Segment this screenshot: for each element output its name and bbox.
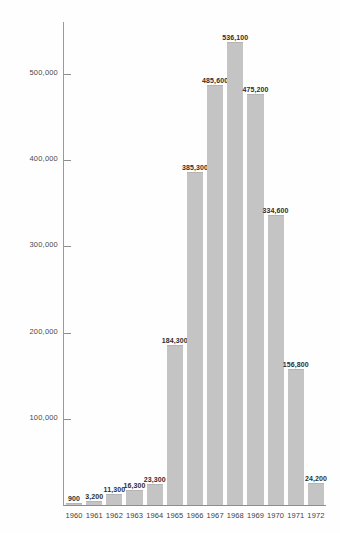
bar[interactable]: [126, 490, 142, 505]
x-axis-label: 1970: [266, 511, 286, 520]
y-axis-tick: 100,000: [64, 419, 71, 420]
bar-slot: 3,200: [86, 22, 102, 505]
y-axis-tick-label: 300,000: [29, 240, 58, 249]
bar[interactable]: [308, 483, 324, 505]
bar-value-label: 485,600: [202, 77, 228, 84]
bar-slot: 16,300: [126, 22, 142, 505]
x-axis-labels: 1960196119621963196419651966196719681969…: [64, 508, 326, 524]
x-axis-label: 1967: [205, 511, 225, 520]
y-axis-tick-label: 100,000: [29, 413, 58, 422]
bar-value-label: 24,200: [305, 475, 327, 482]
bar-value-label: 334,600: [263, 207, 289, 214]
bar-slot: 475,200: [247, 22, 263, 505]
bar-value-label: 16,300: [124, 482, 146, 489]
y-axis-tick-label: 500,000: [29, 68, 58, 77]
bar[interactable]: [86, 501, 102, 505]
bar-value-label: 184,300: [162, 337, 188, 344]
bar-value-label: 536,100: [222, 34, 248, 41]
bar-value-label: 900: [68, 495, 80, 502]
bar-slot: 485,600: [207, 22, 223, 505]
bar-value-label: 385,300: [182, 164, 208, 171]
bar-value-label: 23,300: [144, 476, 166, 483]
bar-slot: 334,600: [268, 22, 284, 505]
bar[interactable]: [66, 503, 82, 506]
bar-slot: 24,200: [308, 22, 324, 505]
bar-slot: 900: [66, 22, 82, 505]
y-axis-tick: 500,000: [64, 74, 71, 75]
bar-slot: 184,300: [167, 22, 183, 505]
x-axis-label: 1964: [145, 511, 165, 520]
y-axis-tick-mark: [64, 333, 71, 334]
bar-slot: 11,300: [106, 22, 122, 505]
bar[interactable]: [167, 345, 183, 505]
bar-value-label: 3,200: [85, 493, 103, 500]
bar-value-label: 11,300: [104, 486, 126, 493]
x-axis-label: 1971: [286, 511, 306, 520]
bar-slot: 385,300: [187, 22, 203, 505]
x-axis-label: 1963: [124, 511, 144, 520]
bar-value-label: 475,200: [242, 86, 268, 93]
bar[interactable]: [288, 369, 304, 505]
x-axis-label: 1968: [225, 511, 245, 520]
x-axis-label: 1962: [104, 511, 124, 520]
bar-slot: 536,100: [227, 22, 243, 505]
bar[interactable]: [268, 215, 284, 505]
y-axis-tick: 300,000: [64, 246, 71, 247]
y-axis-tick: 200,000: [64, 333, 71, 334]
x-axis-line: [64, 505, 326, 506]
bar-slot: 23,300: [147, 22, 163, 505]
y-axis-tick: 400,000: [64, 160, 71, 161]
bar[interactable]: [207, 85, 223, 505]
x-axis-label: 1966: [185, 511, 205, 520]
y-axis-tick-mark: [64, 246, 71, 247]
y-axis-tick-mark: [64, 160, 71, 161]
x-axis-label: 1969: [245, 511, 265, 520]
y-axis-tick-label: 200,000: [29, 327, 58, 336]
bar-chart-figure: 9003,20011,30016,30023,300184,300385,300…: [0, 0, 340, 533]
x-axis-label: 1965: [165, 511, 185, 520]
bar-value-label: 156,800: [283, 361, 309, 368]
y-axis-tick-label: 400,000: [29, 154, 58, 163]
bar[interactable]: [147, 484, 163, 505]
y-axis-tick-mark: [64, 419, 71, 420]
y-axis-tick-mark: [64, 74, 71, 75]
bar[interactable]: [106, 494, 122, 505]
x-axis-label: 1972: [306, 511, 326, 520]
bar[interactable]: [187, 172, 203, 505]
x-axis-label: 1961: [84, 511, 104, 520]
bars-layer: 9003,20011,30016,30023,300184,300385,300…: [64, 22, 326, 505]
x-axis-label: 1960: [64, 511, 84, 520]
bar-slot: 156,800: [288, 22, 304, 505]
bar[interactable]: [227, 42, 243, 505]
bar[interactable]: [247, 94, 263, 505]
